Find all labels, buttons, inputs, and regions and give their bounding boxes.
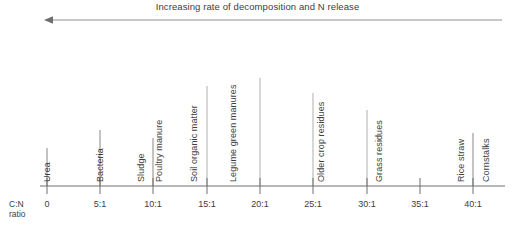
item-label-cornstalks: Cornstalks bbox=[481, 138, 491, 182]
tick-label-25-1: 25:1 bbox=[304, 199, 322, 209]
item-label-soil-organic-matter: Soil organic matter bbox=[189, 105, 199, 182]
item-label-rice-straw: Rice straw bbox=[456, 139, 466, 182]
axis-line-group bbox=[40, 178, 505, 194]
tick-label-40-1: 40:1 bbox=[464, 199, 482, 209]
cn-ratio-diagram: Increasing rate of decomposition and N r… bbox=[0, 0, 515, 236]
item-label-legume-green-manures: Legume green manures bbox=[228, 84, 238, 182]
item-label-grass-residues: Grass residues bbox=[374, 120, 384, 182]
leader-lines bbox=[47, 78, 473, 186]
tick-label-0: 0 bbox=[44, 199, 49, 209]
tick-label-10-1: 10:1 bbox=[144, 199, 162, 209]
item-label-bacteria: Bacteria bbox=[95, 148, 105, 182]
tick-label-5-1: 5:1 bbox=[94, 199, 107, 209]
cn-ratio-axis-label: C:N ratio bbox=[9, 199, 26, 219]
tick-label-15-1: 15:1 bbox=[198, 199, 216, 209]
cn-ratio-label-line2: ratio bbox=[9, 209, 26, 219]
tick-label-20-1: 20:1 bbox=[251, 199, 269, 209]
cn-ratio-label-line1: C:N bbox=[9, 199, 26, 209]
tick-label-30-1: 30:1 bbox=[358, 199, 376, 209]
item-label-poultry-manure: Poultry manure bbox=[154, 120, 164, 182]
tick-label-35-1: 35:1 bbox=[411, 199, 429, 209]
item-label-sludge: Sludge bbox=[136, 153, 146, 182]
item-label-older-crop-residues: Older crop residues bbox=[316, 102, 326, 182]
item-label-urea: Urea bbox=[42, 162, 52, 182]
